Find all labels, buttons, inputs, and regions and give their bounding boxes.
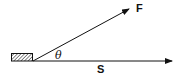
force-label: F <box>136 2 143 14</box>
force-diagram: F θ S <box>0 0 182 76</box>
displacement-label: S <box>97 63 104 75</box>
force-arrow <box>33 9 129 61</box>
block <box>12 54 33 62</box>
angle-label: θ <box>55 49 62 62</box>
